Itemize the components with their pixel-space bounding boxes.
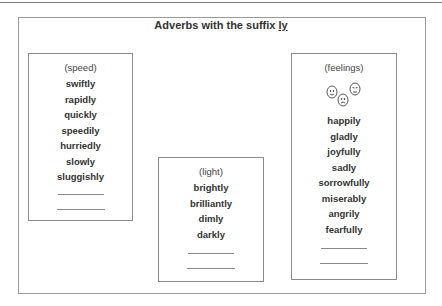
- word: angrily: [292, 206, 396, 222]
- word: hurriedly: [29, 138, 132, 154]
- blank-line[interactable]: [57, 209, 105, 210]
- word: joyfully: [292, 144, 396, 160]
- word: quickly: [29, 107, 132, 123]
- word: miserably: [292, 191, 396, 207]
- speed-box: (speed) swiftly rapidly quickly speedily…: [28, 53, 133, 221]
- word: sadly: [292, 160, 396, 176]
- blank-line[interactable]: [187, 268, 235, 269]
- category-label: (speed): [29, 60, 132, 76]
- category-label: (light): [159, 164, 263, 180]
- word: sorrowfully: [292, 175, 396, 191]
- category-label: (feelings): [292, 60, 396, 76]
- word: sluggishly: [29, 169, 132, 185]
- light-box: (light) brightly brilliantly dimly darkl…: [158, 157, 264, 282]
- title-text: Adverbs with the suffix: [154, 19, 278, 31]
- top-rule: [0, 2, 442, 3]
- word: speedily: [29, 123, 132, 139]
- word: gladly: [292, 129, 396, 145]
- word: dimly: [159, 211, 263, 227]
- word: rapidly: [29, 92, 132, 108]
- blank-line[interactable]: [321, 248, 367, 249]
- blank-line[interactable]: [58, 194, 104, 195]
- word: fearfully: [292, 222, 396, 238]
- word: brilliantly: [159, 196, 263, 212]
- word: swiftly: [29, 76, 132, 92]
- title-suffix: ly: [278, 19, 287, 31]
- blank-line[interactable]: [188, 253, 234, 254]
- page-title: Adverbs with the suffix ly: [0, 19, 442, 31]
- faces-icon: [324, 79, 364, 109]
- word: brightly: [159, 180, 263, 196]
- word: slowly: [29, 154, 132, 170]
- blank-line[interactable]: [320, 263, 368, 264]
- word: happily: [292, 113, 396, 129]
- word: darkly: [159, 227, 263, 243]
- feelings-box: (feelings) happily gladly joyfully sadly…: [291, 53, 397, 280]
